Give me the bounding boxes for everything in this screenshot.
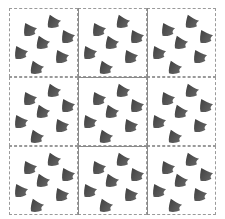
curved-triangle-icon	[121, 46, 141, 66]
curved-triangle-icon	[114, 150, 133, 169]
curved-triangle-icon	[97, 127, 116, 146]
pattern-tile	[78, 8, 147, 77]
curved-triangle-icon	[58, 26, 78, 46]
curved-triangle-icon	[121, 115, 141, 135]
curved-triangle-icon	[45, 81, 64, 100]
pattern-tile	[147, 146, 216, 215]
curved-triangle-icon	[190, 184, 210, 204]
curved-triangle-icon	[190, 46, 210, 66]
curved-triangle-icon	[34, 171, 53, 190]
curved-triangle-icon	[97, 196, 116, 215]
curved-triangle-icon	[172, 33, 191, 52]
pattern-tile	[147, 8, 216, 77]
pattern-tile	[78, 146, 147, 215]
grid-line-horizontal	[78, 146, 147, 147]
curved-triangle-icon	[97, 58, 116, 77]
curved-triangle-icon	[149, 42, 169, 62]
curved-triangle-icon	[52, 184, 72, 204]
curved-triangle-icon	[11, 180, 31, 200]
curved-triangle-icon	[172, 102, 191, 121]
curved-triangle-icon	[58, 95, 78, 115]
curved-triangle-icon	[166, 127, 185, 146]
pattern-tile	[78, 77, 147, 146]
curved-triangle-icon	[45, 150, 64, 169]
pattern-tile	[9, 8, 78, 77]
curved-triangle-icon	[58, 164, 78, 184]
curved-triangle-icon	[11, 42, 31, 62]
curved-triangle-icon	[127, 164, 147, 184]
curved-triangle-icon	[80, 180, 100, 200]
curved-triangle-icon	[149, 180, 169, 200]
curved-triangle-icon	[28, 196, 47, 215]
curved-triangle-icon	[149, 111, 169, 131]
curved-triangle-icon	[52, 115, 72, 135]
curved-triangle-icon	[45, 12, 64, 31]
curved-triangle-icon	[127, 95, 147, 115]
curved-triangle-icon	[196, 26, 216, 46]
curved-triangle-icon	[196, 164, 216, 184]
grid-line-vertical	[78, 8, 79, 215]
curved-triangle-icon	[103, 171, 122, 190]
curved-triangle-icon	[127, 26, 147, 46]
grid-line-horizontal	[78, 77, 147, 78]
curved-triangle-icon	[121, 184, 141, 204]
curved-triangle-icon	[196, 95, 216, 115]
curved-triangle-icon	[34, 33, 53, 52]
curved-triangle-icon	[183, 150, 202, 169]
curved-triangle-icon	[172, 171, 191, 190]
curved-triangle-icon	[28, 127, 47, 146]
curved-triangle-icon	[103, 33, 122, 52]
pattern-tile	[147, 77, 216, 146]
curved-triangle-icon	[114, 12, 133, 31]
curved-triangle-icon	[166, 196, 185, 215]
grid-line-vertical	[147, 8, 148, 215]
curved-triangle-icon	[103, 102, 122, 121]
curved-triangle-icon	[114, 81, 133, 100]
curved-triangle-icon	[80, 42, 100, 62]
curved-triangle-icon	[166, 58, 185, 77]
curved-triangle-icon	[183, 12, 202, 31]
curved-triangle-icon	[28, 58, 47, 77]
curved-triangle-icon	[190, 115, 210, 135]
curved-triangle-icon	[11, 111, 31, 131]
curved-triangle-icon	[80, 111, 100, 131]
curved-triangle-icon	[52, 46, 72, 66]
pattern-tile	[9, 77, 78, 146]
curved-triangle-icon	[34, 102, 53, 121]
curved-triangle-icon	[183, 81, 202, 100]
pattern-tile	[9, 146, 78, 215]
pattern-board	[9, 8, 217, 216]
